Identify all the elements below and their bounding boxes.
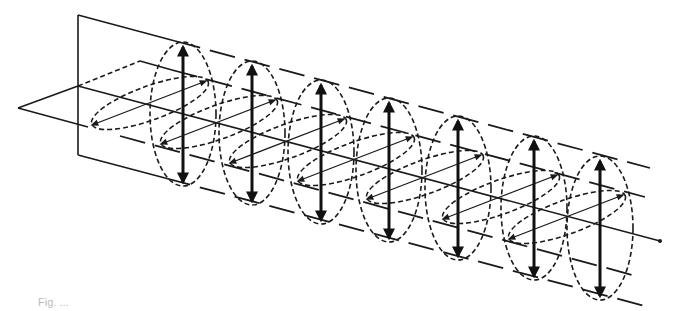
polarization-diagram	[0, 0, 675, 311]
wave-unit	[437, 136, 567, 280]
wave-units	[86, 42, 633, 300]
axis-end-dot	[658, 239, 662, 243]
propagation-axis	[78, 86, 660, 241]
vertical-plane	[78, 15, 650, 306]
figure-caption: Fig. ...	[38, 296, 69, 308]
